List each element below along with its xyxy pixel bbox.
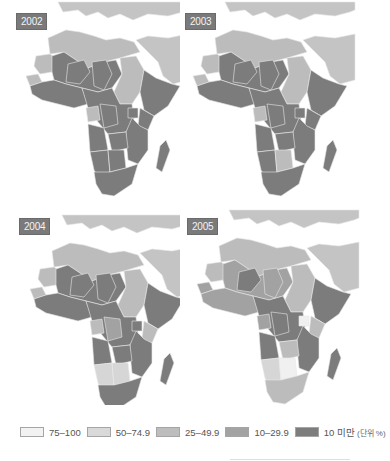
- year-label: 2004: [19, 218, 50, 235]
- region-uganda: [295, 108, 305, 118]
- africa-map: [0, 0, 180, 200]
- map-panel-2003: 2003: [183, 0, 363, 200]
- legend-item-25-49: 25–49.9: [156, 427, 219, 438]
- region-uganda: [128, 108, 138, 118]
- year-label: 2003: [185, 13, 216, 30]
- legend-swatch: [156, 427, 180, 437]
- region-zambia: [112, 345, 132, 365]
- region-sudan: [114, 56, 144, 104]
- region-zambia: [275, 132, 295, 152]
- region-europe: [225, 2, 355, 20]
- region-gabon: [257, 314, 271, 330]
- year-label: 2005: [187, 218, 218, 235]
- legend-item-under-10: 10 미만 (단위 %): [295, 425, 386, 439]
- region-madagascar: [323, 140, 337, 172]
- africa-map: [0, 205, 180, 405]
- region-zambia: [279, 340, 299, 360]
- legend-label: 75–100: [49, 427, 81, 438]
- divider: [230, 459, 350, 460]
- legend-item-10-29: 10–29.9: [225, 427, 288, 438]
- region-sudan: [281, 56, 311, 104]
- region-gabon: [90, 319, 104, 335]
- region-madagascar: [156, 140, 170, 172]
- legend-swatch: [87, 427, 111, 437]
- region-sudan: [285, 264, 315, 312]
- legend-label: 50–74.9: [116, 427, 150, 438]
- legend-swatch: [20, 427, 44, 437]
- legend-item-50-74: 50–74.9: [87, 427, 150, 438]
- region-gabon: [253, 106, 267, 122]
- legend-swatch: [295, 427, 319, 437]
- map-panel-2004: 2004: [0, 205, 180, 405]
- legend-item-75-100: 75–100: [20, 427, 81, 438]
- africa-map: [183, 205, 363, 405]
- region-sudan: [118, 269, 148, 317]
- region-europe: [58, 2, 180, 20]
- legend-label: 10–29.9: [254, 427, 288, 438]
- region-uganda: [132, 321, 142, 331]
- legend-swatch: [225, 427, 249, 437]
- year-label: 2002: [16, 13, 47, 30]
- region-gabon: [86, 106, 100, 122]
- legend-label: 25–49.9: [185, 427, 219, 438]
- region-madagascar: [160, 353, 174, 385]
- region-madagascar: [327, 348, 341, 380]
- map-panel-2002: 2002: [0, 0, 180, 200]
- map-panel-2005: 2005: [183, 205, 363, 405]
- legend: 75–100 50–74.9 25–49.9 10–29.9 10 미만 (단위…: [20, 425, 390, 439]
- legend-label: 10 미만: [324, 425, 355, 439]
- africa-map: [183, 0, 363, 200]
- region-europe: [62, 215, 180, 233]
- region-zambia: [108, 132, 128, 152]
- legend-unit: (단위 %): [357, 427, 386, 438]
- region-uganda: [299, 316, 309, 326]
- region-europe: [229, 210, 359, 228]
